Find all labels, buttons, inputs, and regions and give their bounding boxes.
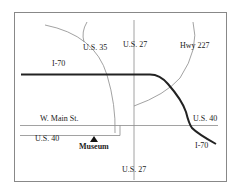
label-us27-top: U.S. 27 [123, 41, 147, 49]
label-i70-right: I-70 [195, 142, 208, 150]
label-hwy227: Hwy 227 [180, 42, 210, 50]
label-us27-bottom: U.S. 27 [122, 166, 146, 174]
label-i70-left: I-70 [52, 60, 65, 68]
label-us35: U.S. 35 [83, 44, 107, 52]
label-us40-right: U.S. 40 [193, 115, 217, 123]
map-canvas [0, 0, 239, 192]
road-map: U.S. 35 U.S. 27 Hwy 227 I-70 W. Main St.… [0, 0, 239, 192]
label-museum: Museum [79, 143, 109, 151]
label-w-main-st: W. Main St. [40, 115, 78, 123]
label-us40-left: U.S. 40 [35, 135, 59, 143]
